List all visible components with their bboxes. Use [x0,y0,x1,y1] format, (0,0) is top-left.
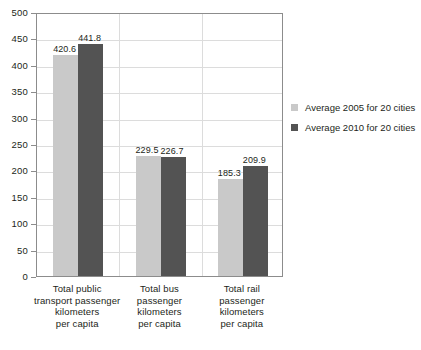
legend-item-label: Average 2010 for 20 cities [305,122,415,133]
legend-item[interactable]: Average 2010 for 20 cities [291,122,415,133]
category-divider [119,14,120,277]
bar[interactable] [136,156,161,277]
legend: Average 2005 for 20 cities Average 2010 … [291,102,415,142]
category-label-line: passenger [188,295,296,307]
y-axis-tick-label: 0 [2,271,28,282]
bar-value-label: 185.3 [211,168,248,178]
bar[interactable] [243,166,268,277]
legend-swatch-icon [291,124,298,131]
y-axis-tick-label: 500 [2,7,28,18]
category-label-line: Total rail [188,283,296,295]
y-axis-tick-label: 400 [2,60,28,71]
legend-swatch-icon [291,104,298,111]
bar-value-label: 441.8 [71,33,108,43]
axis-baseline [37,276,282,277]
y-axis-tick-mark [31,277,36,278]
y-axis-tick-label: 100 [2,218,28,229]
bar[interactable] [161,157,186,277]
bar[interactable] [218,179,243,277]
y-axis-tick-label: 50 [2,245,28,256]
bar[interactable] [78,44,103,277]
y-axis-tick-label: 450 [2,33,28,44]
bar-value-label: 226.7 [154,146,191,156]
y-axis-tick-label: 150 [2,192,28,203]
bar-chart: 500450400350300250200150100500 420.6441.… [0,0,421,350]
y-axis-tick-label: 350 [2,86,28,97]
category-label: Total railpassengerkilometersper capita [188,283,296,329]
y-axis-tick-label: 250 [2,139,28,150]
y-axis-tick-label: 200 [2,165,28,176]
category-divider [202,14,203,277]
bar-value-label: 209.9 [236,155,273,165]
category-label-line: per capita [188,318,296,330]
legend-item-label: Average 2005 for 20 cities [305,102,415,113]
bar-value-label: 420.6 [46,44,83,54]
legend-item[interactable]: Average 2005 for 20 cities [291,102,415,113]
bar[interactable] [53,55,78,277]
y-axis-tick-label: 300 [2,113,28,124]
category-label-line: kilometers [188,306,296,318]
